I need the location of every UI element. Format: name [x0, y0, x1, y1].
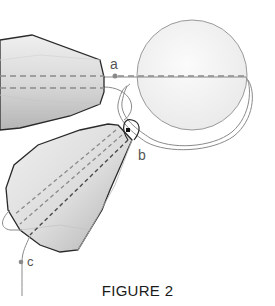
label-a: a	[110, 56, 118, 72]
thread-loop-b	[124, 120, 139, 140]
label-c: c	[27, 254, 34, 269]
beading-diagram: a b c	[0, 0, 275, 306]
figure-caption: FIGURE 2	[0, 282, 275, 299]
point-a: a	[110, 56, 118, 79]
top-left-bead	[0, 35, 104, 130]
lower-bead	[6, 124, 132, 252]
pearl-bead	[137, 20, 247, 130]
label-b: b	[138, 147, 146, 163]
